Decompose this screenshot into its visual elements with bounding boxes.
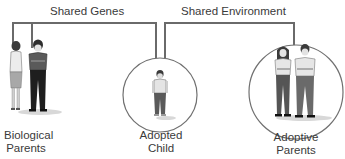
biological-parents-label-line2: Parents [4,142,48,155]
adoptive-parents-label: Adoptive Parents [270,131,322,157]
shared-genes-label: Shared Genes [50,5,124,18]
man-figure-icon [29,40,47,112]
shared-environment-label: Shared Environment [181,5,286,18]
adopted-child-label: Adopted Child [136,129,186,155]
biological-parents-label-line1: Biological [4,129,48,142]
biological-parents-label: Biological Parents [4,129,48,155]
woman-figure-icon [10,41,22,110]
adopted-child-label-line2: Child [136,142,186,155]
adoptive-parents-label-line2: Parents [270,144,322,157]
biological-parents-figures [10,40,62,116]
adoptive-parents-label-line1: Adoptive [270,131,322,144]
adopted-child-label-line1: Adopted [136,129,186,142]
